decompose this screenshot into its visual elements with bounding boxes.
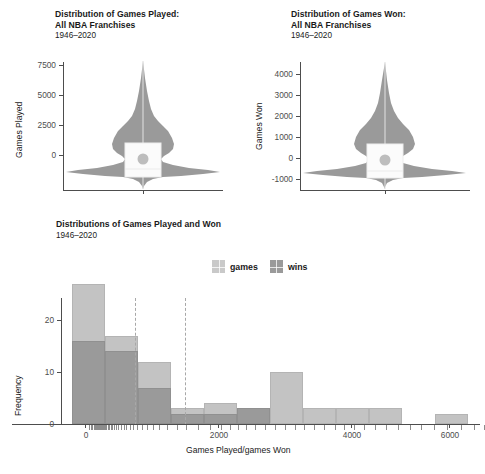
rug-tick [89,425,90,430]
games-won-ytick-neg1000: -1000 [255,174,293,184]
violin-mean-dot [138,154,149,165]
games-played-ytick-0: 0 [22,150,56,160]
rug-tick [304,425,305,430]
rug-tick [275,425,276,430]
rug-tick [153,425,154,430]
games-won-ytick-1000: 1000 [259,132,293,142]
rug-tick [461,425,462,430]
rug-tick [295,425,296,430]
rug-tick [137,425,138,430]
rug-tick [121,425,122,430]
games-won-ytick-2000: 2000 [259,111,293,121]
games-won-title: Distribution of Games Won: All NBA Franc… [291,9,406,41]
rug-tick [265,425,266,430]
rug-tick [130,425,131,430]
games-won-y-axis-title: Games Won [254,102,264,150]
rug-tick [177,425,178,430]
rug-tick [238,425,239,430]
rug-tick [116,425,117,430]
rug-tick [421,425,422,430]
rug-tick [335,425,336,430]
games-won-ytick-3000: 3000 [259,90,293,100]
rug-tick [159,425,160,430]
games-played-ytick-2500: 2500 [22,120,56,130]
games-won-ytick-0: 0 [259,153,293,163]
rug-tick [221,425,222,430]
rug-tick [410,425,411,430]
rug-tick [255,425,256,430]
games-won-violin [300,58,470,190]
rug-tick [230,425,231,430]
rug-tick [285,425,286,430]
rug-tick [142,425,143,430]
games-played-ytick-5000: 5000 [22,90,56,100]
rug-tick [198,425,199,430]
rug-tick [114,425,115,430]
rug-tick [354,425,355,430]
histogram-rug [0,205,485,474]
panel-histogram: Distributions of Games Played and Won 19… [0,205,485,474]
panel-games-won: Distribution of Games Won: All NBA Franc… [243,0,485,205]
rug-tick [126,425,127,430]
rug-tick [124,425,125,430]
rug-tick [447,425,448,430]
rug-tick [147,425,148,430]
rug-tick [112,425,113,430]
panel-games-played: Distribution of Games Played: All NBA Fr… [0,0,242,205]
rug-tick [434,425,435,430]
games-won-ytick-4000: 4000 [259,69,293,79]
games-played-ytick-7500: 7500 [22,60,56,70]
rug-tick [324,425,325,430]
rug-tick [133,425,134,430]
rug-tick [344,425,345,430]
rug-tick [186,425,187,430]
rug-tick [398,425,399,430]
rug-tick [246,425,247,430]
rug-tick [118,425,119,430]
games-played-title: Distribution of Games Played: All NBA Fr… [55,9,179,41]
rug-tick [210,425,211,430]
games-played-violin [63,58,223,190]
rug-tick [167,425,168,430]
histogram-x-axis-title: Games Played/games Won [186,445,290,455]
violin-mean-dot [380,155,391,166]
rug-tick [314,425,315,430]
rug-tick [386,425,387,430]
rug-tick [375,425,376,430]
rug-tick [474,425,475,430]
rug-tick [364,425,365,430]
